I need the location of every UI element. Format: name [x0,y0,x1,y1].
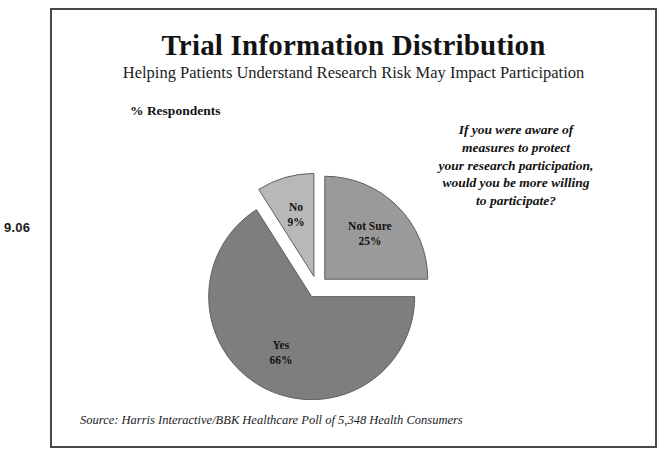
pie-slice-label-not-sure: Not Sure [348,220,392,232]
axis-caption-percent-respondents: % Respondents [130,103,220,119]
pie-slice-group [209,173,428,399]
page-margin-code: 9.06 [4,220,30,235]
source-note: Source: Harris Interactive/BBK Healthcar… [80,413,463,428]
pie-slice-value-yes: 66% [269,354,292,366]
page-title: Trial Information Distribution [52,30,655,60]
pie-chart-svg: Not Sure25%Yes66%No9% [152,140,462,400]
pie-slice-value-no: 9% [287,216,304,228]
pie-slice-label-yes: Yes [273,339,290,351]
pie-slice-value-not-sure: 25% [358,235,381,247]
question-line-1: If you were aware of [410,121,622,139]
pie-slice-label-no: No [289,201,303,213]
slide-frame: Trial Information Distribution Helping P… [50,8,657,448]
pie-chart: Not Sure25%Yes66%No9% [152,140,462,400]
page-subtitle: Helping Patients Understand Research Ris… [52,64,655,82]
